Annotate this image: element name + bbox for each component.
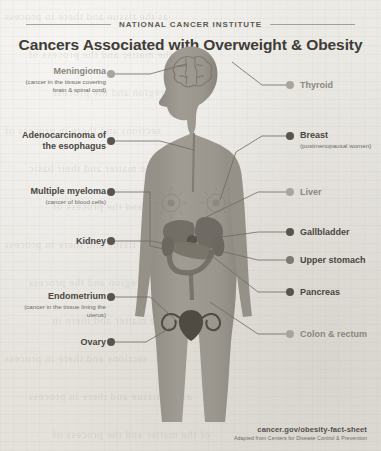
callout-label: Meningioma [12,66,106,77]
callout-breast[interactable]: Breast (postmenopausal women) [300,130,378,150]
callout-upper-stomach[interactable]: Upper stomach [300,255,380,266]
dot-adenocarcinoma-esophagus[interactable] [107,137,115,145]
callout-label: Ovary [30,337,106,348]
dot-liver[interactable] [286,188,294,196]
callout-adenocarcinoma-esophagus[interactable]: Adenocarcinoma of the esophagus [8,130,106,152]
dot-upper-stomach[interactable] [286,256,294,264]
callout-label: Colon & rectum [300,329,380,340]
dot-thyroid[interactable] [286,81,294,89]
callout-multiple-myeloma[interactable]: Multiple myeloma (cancer of blood cells) [8,186,106,206]
callout-thyroid[interactable]: Thyroid [300,80,378,91]
callout-label: Gallbladder [300,227,380,238]
rectum-icon [191,274,192,300]
callout-liver[interactable]: Liver [300,187,378,198]
callout-pancreas[interactable]: Pancreas [300,287,380,298]
esophagus-icon [193,133,194,192]
source-attribution: Adapted from Centers for Disease Control… [234,435,367,441]
callout-colon-rectum[interactable]: Colon & rectum [300,329,380,340]
callout-meningioma[interactable]: Meningioma (cancer in the tissue coverin… [12,66,106,93]
callout-gallbladder[interactable]: Gallbladder [300,227,380,238]
dot-breast[interactable] [286,132,294,140]
callout-label: Endometrium [10,291,106,302]
callout-sublabel: (cancer in the tissue lining the uterus) [10,303,106,318]
callout-label: Breast [300,130,378,141]
callout-label: Adenocarcinoma of the esophagus [8,130,106,152]
dot-multiple-myeloma[interactable] [107,188,115,196]
dot-colon-rectum[interactable] [286,330,294,338]
connector-thyroid [232,62,289,85]
callout-sublabel: (cancer of blood cells) [8,198,106,206]
callout-label: Liver [300,187,378,198]
dot-pancreas[interactable] [286,288,294,296]
dot-gallbladder[interactable] [286,228,294,236]
callout-label: Pancreas [300,287,380,298]
callout-endometrium[interactable]: Endometrium (cancer in the tissue lining… [10,291,106,318]
callout-label: Multiple myeloma [8,186,106,197]
callout-sublabel: (cancer in the tissue covering brain & s… [12,78,106,93]
callout-label: Thyroid [300,80,378,91]
head-shape [159,47,218,121]
infographic-card: NATIONAL CANCER INSTITUTE Cancers Associ… [0,0,381,451]
source-url[interactable]: cancer.gov/obesity-fact-sheet [234,425,367,434]
dot-meningioma[interactable] [107,70,115,78]
silhouette-group [135,47,252,423]
dot-kidney[interactable] [107,237,115,245]
dot-endometrium[interactable] [107,293,115,301]
callout-sublabel: (postmenopausal women) [300,142,378,150]
callout-kidney[interactable]: Kidney [30,236,106,247]
callout-label: Kidney [30,236,106,247]
footer: cancer.gov/obesity-fact-sheet Adapted fr… [234,425,367,442]
callout-label: Upper stomach [300,255,380,266]
callout-ovary[interactable]: Ovary [30,337,106,348]
dot-ovary[interactable] [107,338,115,346]
